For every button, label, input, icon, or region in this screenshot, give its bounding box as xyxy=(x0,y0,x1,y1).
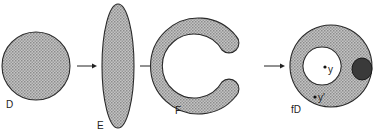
shape-d xyxy=(2,32,70,100)
label-e: E xyxy=(97,120,104,131)
label-d: D xyxy=(6,99,13,110)
label-point-y: y xyxy=(328,64,333,75)
dark-blob xyxy=(352,58,372,80)
label-f: F xyxy=(175,105,181,116)
arrow-icon xyxy=(264,64,285,69)
point-y-icon xyxy=(323,65,326,68)
diagram-canvas: D E F y y' fD xyxy=(0,0,376,139)
shape-e xyxy=(102,4,134,128)
point-y-prime-icon xyxy=(313,95,316,98)
label-fd: fD xyxy=(291,104,301,115)
shape-f xyxy=(151,18,239,114)
arrow-icon xyxy=(77,64,97,69)
label-point-y-prime: y' xyxy=(318,92,325,103)
